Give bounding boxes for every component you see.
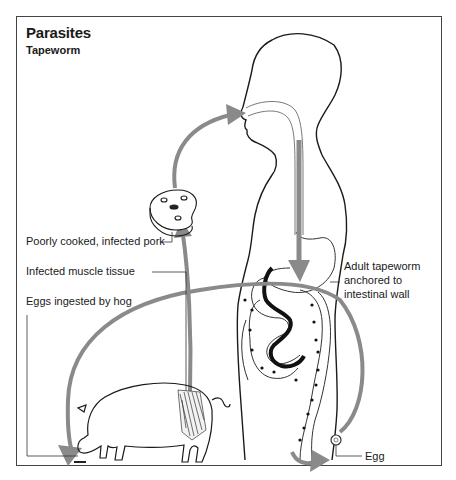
label-pork: Poorly cooked, infected pork [26, 234, 165, 248]
pig-figure [78, 383, 230, 462]
label-egg: Egg [365, 449, 385, 463]
label-adult-line1: Adult tapeworm [344, 259, 420, 273]
human-figure [237, 34, 347, 460]
pork-to-mouth-arrow [174, 115, 230, 188]
egg-exit-arrowhead [310, 450, 330, 472]
label-adult-line3: intestinal wall [344, 287, 409, 301]
egg-icon [331, 435, 341, 445]
label-eggs-ingested: Eggs ingested by hog [26, 294, 132, 308]
label-muscle-tissue: Infected muscle tissue [26, 264, 135, 278]
digestion-arrowhead [288, 260, 310, 282]
label-adult-line2: anchored to [344, 273, 402, 287]
infected-muscle-tissue [178, 390, 206, 440]
muscle-leader-line [152, 272, 186, 395]
egg-to-hog-arrow [68, 284, 363, 452]
intestine-eggs [243, 298, 319, 441]
pork-chop-icon [150, 190, 196, 236]
egg-leader-line [336, 445, 362, 456]
hog-to-pork-arrow [183, 235, 191, 395]
